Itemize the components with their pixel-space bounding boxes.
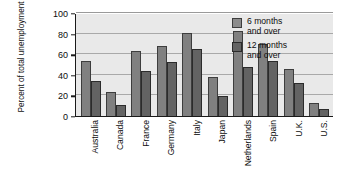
legend-entry: 6 months and over bbox=[232, 17, 328, 36]
bar-group bbox=[106, 14, 126, 116]
x-axis-label-slot: Canada bbox=[105, 119, 126, 189]
bar-group bbox=[157, 14, 177, 116]
x-axis-label-slot: Italy bbox=[181, 119, 202, 189]
x-axis-category-label: Netherlands bbox=[243, 120, 253, 166]
bar bbox=[319, 109, 329, 116]
bar bbox=[106, 92, 116, 116]
bar bbox=[192, 49, 202, 116]
gridline bbox=[76, 12, 333, 13]
bar bbox=[208, 77, 218, 116]
bar bbox=[294, 83, 304, 116]
bar bbox=[131, 51, 141, 116]
legend-color-swatch bbox=[232, 42, 242, 52]
bar-group bbox=[182, 14, 202, 116]
y-axis-tick-label: 100 bbox=[53, 9, 68, 19]
legend-label: 6 months and over bbox=[247, 17, 282, 36]
bar bbox=[81, 61, 91, 116]
y-axis-tick-label: 40 bbox=[58, 71, 68, 81]
bar bbox=[157, 46, 167, 116]
bar-group bbox=[81, 14, 101, 116]
y-axis-tick-label: 0 bbox=[63, 112, 68, 122]
bar bbox=[243, 67, 253, 116]
bar bbox=[141, 71, 151, 116]
x-axis-category-label: Germany bbox=[166, 120, 176, 155]
bar bbox=[167, 62, 177, 116]
bar-group bbox=[131, 14, 151, 116]
legend-label: 12 months and over bbox=[247, 41, 287, 60]
bar bbox=[91, 81, 101, 116]
x-axis-category-labels: AustraliaCanadaFranceGermanyItalyJapanNe… bbox=[75, 119, 333, 189]
x-axis-label-slot: France bbox=[130, 119, 151, 189]
legend: 6 months and over12 months and over bbox=[232, 17, 328, 65]
x-axis-category-label: France bbox=[141, 120, 151, 147]
x-axis-label-slot: Netherlands bbox=[232, 119, 253, 189]
y-axis-tick-label: 80 bbox=[58, 30, 68, 40]
bar bbox=[182, 33, 192, 116]
x-axis-category-label: Canada bbox=[115, 120, 125, 150]
x-axis-category-label: Australia bbox=[90, 120, 100, 153]
x-axis-category-label: U.S. bbox=[319, 120, 329, 137]
x-axis-category-label: Spain bbox=[268, 120, 278, 142]
x-axis-label-slot: Spain bbox=[258, 119, 279, 189]
bar bbox=[268, 61, 278, 116]
bar bbox=[116, 105, 126, 116]
bar-chart: Percent of total unemployment 0204060801… bbox=[0, 0, 347, 189]
bar-group bbox=[208, 14, 228, 116]
x-axis-label-slot: U.K. bbox=[283, 119, 304, 189]
x-axis-label-slot: Japan bbox=[207, 119, 228, 189]
legend-color-swatch bbox=[232, 18, 242, 28]
y-axis-tick-label: 20 bbox=[58, 91, 68, 101]
x-axis-category-label: U.K. bbox=[294, 120, 304, 137]
x-axis-label-slot: Australia bbox=[79, 119, 100, 189]
y-axis-title: Percent of total unemployment bbox=[5, 0, 39, 117]
bar bbox=[218, 96, 228, 116]
x-axis-label-slot: Germany bbox=[156, 119, 177, 189]
y-axis-tick-labels: 020406080100 bbox=[44, 8, 72, 120]
legend-entry: 12 months and over bbox=[232, 41, 328, 60]
x-axis-category-label: Italy bbox=[192, 120, 202, 136]
x-axis-label-slot: U.S. bbox=[309, 119, 330, 189]
x-axis-category-label: Japan bbox=[217, 120, 227, 143]
bar bbox=[284, 69, 294, 116]
y-axis-tick-label: 60 bbox=[58, 50, 68, 60]
bar bbox=[309, 103, 319, 116]
